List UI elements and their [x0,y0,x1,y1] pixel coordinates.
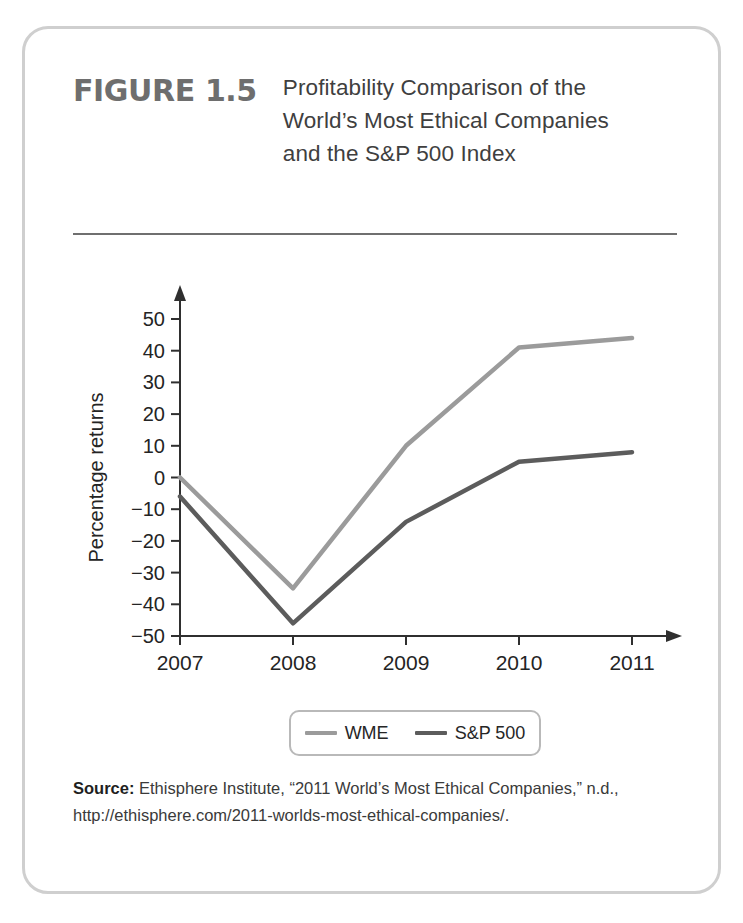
y-tick-label: 40 [143,340,165,362]
x-tick-label: 2010 [496,651,543,674]
series-line [180,452,632,623]
figure-header: FIGURE 1.5 Profitability Comparison of t… [73,71,677,170]
chart-tick-marks [171,319,632,645]
figure-number: FIGURE 1.5 [73,71,257,108]
figure-card: FIGURE 1.5 Profitability Comparison of t… [22,26,721,894]
legend-label-wme: WME [345,723,389,744]
y-tick-label: −50 [131,625,165,647]
legend-swatch-wme [305,731,337,735]
chart-series-lines [180,338,632,623]
y-tick-label: −40 [131,593,165,615]
y-tick-label: 30 [143,371,165,393]
y-axis-tick-labels: 50403020100−10−20−30−40−50 [131,308,165,647]
legend-item-sp500: S&P 500 [415,723,526,744]
line-chart: 50403020100−10−20−30−40−50 2007200820092… [25,257,718,687]
y-tick-label: −30 [131,562,165,584]
y-tick-label: 0 [154,467,165,489]
y-tick-label: −20 [131,530,165,552]
chart-canvas: 50403020100−10−20−30−40−50 2007200820092… [25,257,718,687]
x-tick-label: 2007 [157,651,204,674]
y-tick-label: −10 [131,498,165,520]
y-tick-label: 50 [143,308,165,330]
x-axis-tick-labels: 20072008200920102011 [157,651,655,674]
x-tick-label: 2008 [270,651,317,674]
x-tick-label: 2011 [609,651,654,674]
y-axis-title: Percentage returns [85,392,107,562]
header-divider [73,233,677,235]
chart-legend: WME S&P 500 [289,710,541,756]
x-tick-label: 2009 [383,651,430,674]
series-line [180,338,632,588]
source-text: Ethisphere Institute, “2011 World’s Most… [73,779,619,824]
legend-label-sp500: S&P 500 [455,723,526,744]
source-label: Source: [73,779,134,797]
source-note: Source: Ethisphere Institute, “2011 Worl… [73,775,669,829]
y-tick-label: 20 [143,403,165,425]
figure-title: Profitability Comparison of the World’s … [283,71,613,170]
legend-item-wme: WME [305,723,389,744]
y-tick-label: 10 [143,435,165,457]
legend-swatch-sp500 [415,731,447,735]
